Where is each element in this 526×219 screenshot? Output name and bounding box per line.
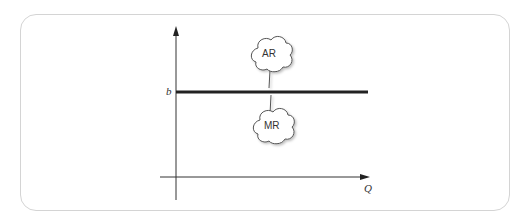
x-axis-arrow-icon bbox=[360, 174, 370, 180]
x-axis bbox=[160, 174, 370, 180]
ar-label: AR bbox=[262, 48, 276, 59]
diagram-canvas bbox=[0, 0, 526, 219]
x-axis-label: Q bbox=[364, 182, 372, 194]
y-axis-arrow-icon bbox=[173, 26, 179, 36]
y-axis bbox=[173, 26, 179, 200]
mr-label: MR bbox=[264, 120, 280, 131]
ar-callout bbox=[251, 36, 292, 88]
price-label-b: b bbox=[166, 85, 172, 97]
